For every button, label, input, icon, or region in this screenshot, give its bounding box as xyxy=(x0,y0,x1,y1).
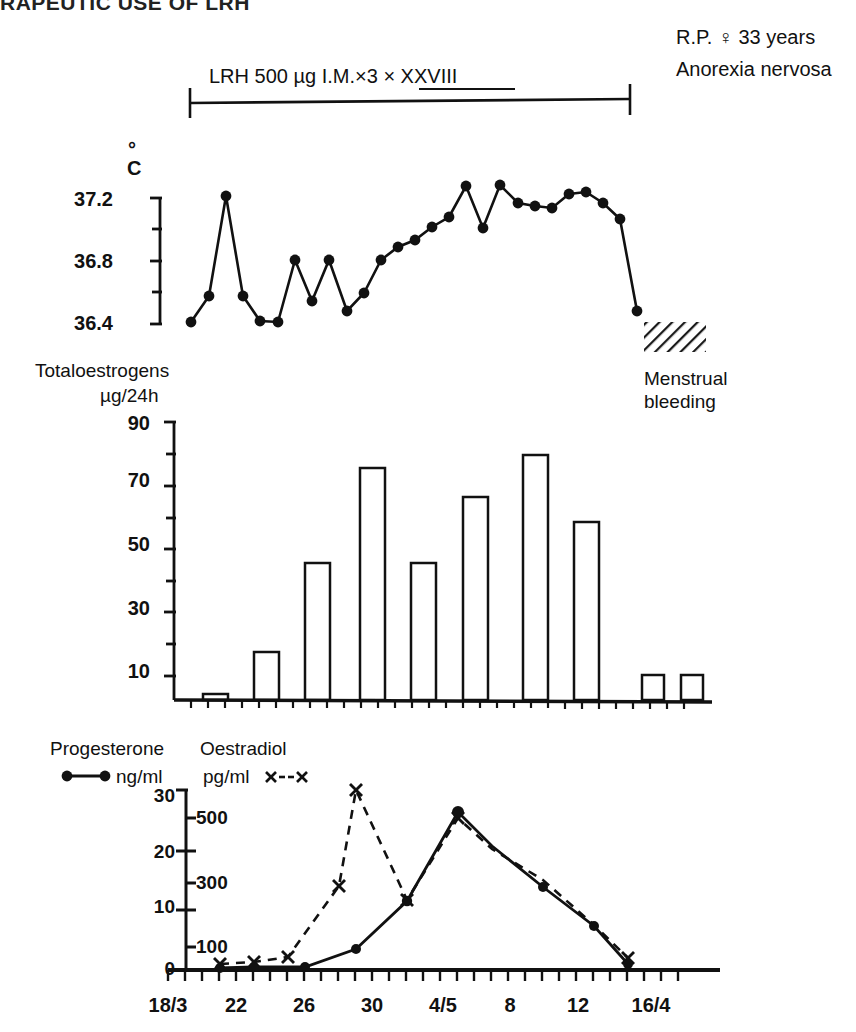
xtick-label-6: 12 xyxy=(567,994,589,1016)
cropped-page-header-text: RAPEUTIC USE OF LRH xyxy=(0,0,470,13)
progesterone-oestradiol-y-axis xyxy=(176,790,196,970)
xtick-label-3: 30 xyxy=(361,994,383,1016)
bottom-x-axis xyxy=(168,970,720,981)
patient-info-line1: R.P. ♀ 33 years xyxy=(676,26,815,48)
oestrogens-bars xyxy=(203,455,703,700)
xtick-label-4: 4/5 xyxy=(429,994,457,1016)
menstrual-bleeding-hatch xyxy=(644,322,706,352)
oestrogens-ytick-50: 50 xyxy=(128,533,150,555)
oestradiol-curve xyxy=(220,790,628,964)
menstrual-bleeding-label-line2: bleeding xyxy=(644,391,716,412)
oestrogens-x-axis xyxy=(174,700,712,709)
oestrogens-axis-title: Totaloestrogens xyxy=(35,360,169,381)
bar xyxy=(681,675,703,700)
oestrogens-ytick-70: 70 xyxy=(128,469,150,491)
oestrogens-ytick-10: 10 xyxy=(128,660,150,682)
oestradiol-ytick-300: 300 xyxy=(196,872,228,893)
progesterone-legend-marker xyxy=(62,771,111,782)
temp-y-axis xyxy=(150,198,162,324)
temp-ytick-36.8: 36.8 xyxy=(74,250,113,272)
temp-axis-unit-c: C xyxy=(127,157,141,179)
xtick-label-7: 16/4 xyxy=(632,994,672,1016)
prog-ytick-10: 10 xyxy=(154,896,175,917)
oestrogens-axis-unit: µg/24h xyxy=(100,385,159,406)
treatment-bar-bracket xyxy=(190,84,630,118)
bar xyxy=(523,455,548,700)
progesterone-legend-title: Progesterone xyxy=(50,738,164,759)
bar xyxy=(305,563,330,700)
oestradiol-ytick-100: 100 xyxy=(196,936,228,957)
prog-ytick-30: 30 xyxy=(154,785,175,806)
temperature-curve xyxy=(191,185,637,322)
figure-root: RAPEUTIC USE OF LRH R.P. ♀ 33 years Anor… xyxy=(0,0,856,1032)
figure-canvas: R.P. ♀ 33 years Anorexia nervosa LRH 500… xyxy=(0,0,856,1032)
temp-ytick-36.4: 36.4 xyxy=(74,312,114,334)
oestrogens-ytick-30: 30 xyxy=(128,597,150,619)
cropped-page-header: RAPEUTIC USE OF LRH xyxy=(0,0,470,14)
bar xyxy=(574,522,599,700)
xtick-label-0: 18/3 xyxy=(149,994,188,1016)
oestradiol-markers xyxy=(214,784,634,970)
prog-ytick-20: 20 xyxy=(154,841,175,862)
oestrogens-y-axis xyxy=(164,422,176,700)
progesterone-markers xyxy=(215,806,633,973)
progesterone-curve xyxy=(220,812,628,968)
oestrogens-ytick-90: 90 xyxy=(128,412,150,434)
oestradiol-legend-unit: pg/ml xyxy=(203,766,249,787)
temperature-markers xyxy=(186,180,643,328)
bar xyxy=(360,468,385,700)
bar xyxy=(642,675,664,700)
xtick-label-2: 26 xyxy=(293,994,315,1016)
bar xyxy=(411,563,436,700)
bar xyxy=(254,652,279,700)
bar xyxy=(463,497,488,700)
oestradiol-legend-title: Oestradiol xyxy=(200,738,287,759)
oestradiol-legend-marker xyxy=(266,772,307,782)
temp-ytick-37.2: 37.2 xyxy=(74,188,113,210)
oestradiol-ytick-500: 500 xyxy=(196,807,228,828)
treatment-bar-label: LRH 500 µg I.M.×3 × XXVIII xyxy=(209,65,457,87)
xtick-label-1: 22 xyxy=(225,994,247,1016)
xtick-label-5: 8 xyxy=(504,994,515,1016)
menstrual-bleeding-label-line1: Menstrual xyxy=(644,368,727,389)
progesterone-legend-unit: ng/ml xyxy=(116,766,162,787)
patient-info-line2: Anorexia nervosa xyxy=(676,58,833,80)
